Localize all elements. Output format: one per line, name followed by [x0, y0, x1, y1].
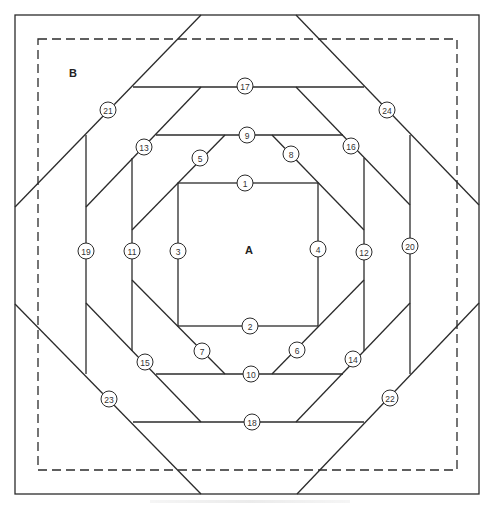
sewing-order-marker-20: 20: [402, 238, 418, 254]
marker-number: 11: [128, 247, 137, 257]
marker-number: 16: [346, 142, 356, 152]
sewing-order-marker-19: 19: [78, 243, 94, 259]
marker-number: 12: [359, 248, 369, 258]
sewing-order-marker-3: 3: [170, 243, 186, 259]
sewing-order-marker-15: 15: [137, 354, 153, 370]
marker-number: 17: [240, 82, 250, 92]
marker-number: 5: [198, 154, 203, 164]
sewing-order-marker-10: 10: [243, 366, 259, 382]
marker-number: 1: [243, 179, 248, 189]
marker-number: 14: [348, 355, 358, 365]
sewing-order-marker-8: 8: [283, 146, 299, 162]
marker-number: 21: [103, 106, 113, 116]
sewing-order-marker-22: 22: [382, 390, 398, 406]
piecing-diagram: A B 123456789101112131415161718192021222…: [0, 0, 488, 506]
marker-number: 22: [385, 394, 395, 404]
sewing-order-marker-23: 23: [101, 391, 117, 407]
marker-number: 24: [382, 106, 392, 116]
piece-label-b: B: [69, 67, 77, 79]
sewing-order-marker-5: 5: [192, 150, 208, 166]
marker-number: 13: [139, 143, 149, 153]
sewing-order-marker-11: 11: [124, 243, 140, 259]
sewing-order-marker-7: 7: [194, 343, 210, 359]
marker-number: 8: [289, 150, 294, 160]
sewing-order-marker-6: 6: [289, 342, 305, 358]
sewing-order-marker-17: 17: [237, 78, 253, 94]
marker-number: 3: [176, 247, 181, 257]
marker-number: 2: [248, 322, 253, 332]
marker-number: 23: [104, 395, 114, 405]
sewing-order-marker-9: 9: [239, 127, 255, 143]
sewing-order-marker-13: 13: [136, 139, 152, 155]
sewing-order-marker-1: 1: [237, 175, 253, 191]
marker-number: 10: [246, 370, 256, 380]
sewing-order-marker-24: 24: [379, 102, 395, 118]
sewing-order-marker-4: 4: [310, 241, 326, 257]
marker-number: 6: [295, 346, 300, 356]
cropped-caption-remnant: [150, 500, 350, 503]
marker-number: 18: [247, 418, 257, 428]
piece-label-a: A: [245, 244, 253, 256]
sewing-order-marker-2: 2: [242, 318, 258, 334]
sewing-order-marker-18: 18: [244, 414, 260, 430]
sewing-order-marker-21: 21: [100, 102, 116, 118]
marker-number: 7: [200, 347, 205, 357]
marker-number: 19: [81, 247, 91, 257]
sewing-order-marker-12: 12: [356, 244, 372, 260]
marker-number: 20: [405, 242, 415, 252]
sewing-order-marker-16: 16: [343, 138, 359, 154]
marker-number: 9: [245, 131, 250, 141]
marker-number: 4: [316, 245, 321, 255]
marker-number: 15: [140, 358, 150, 368]
sewing-order-marker-14: 14: [345, 351, 361, 367]
